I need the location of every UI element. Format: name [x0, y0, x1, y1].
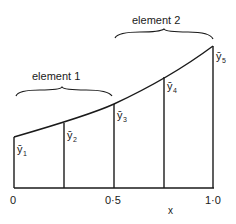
ordinate-label-1: ȳ 1: [17, 143, 27, 157]
ordinate-label-2: ȳ 2: [67, 129, 77, 143]
tick-0-5: 0·5: [105, 194, 121, 206]
tick-0: 0: [10, 194, 16, 206]
ordinate-label-4: ȳ 4: [167, 80, 177, 94]
brace-element-1: [16, 87, 112, 96]
element-1-label: element 1: [32, 70, 80, 82]
svg-text:4: 4: [173, 87, 177, 94]
svg-text:1: 1: [23, 150, 27, 157]
integration-diagram: element 1 element 2 ȳ 1 ȳ 2 ȳ 3 ȳ 4 ȳ 5 …: [0, 0, 236, 224]
ordinate-label-5: ȳ 5: [216, 50, 226, 64]
x-axis-label: x: [168, 205, 173, 216]
brace-element-2: [115, 29, 213, 39]
svg-text:5: 5: [222, 57, 226, 64]
tick-1-0: 1·0: [205, 194, 221, 206]
ordinate-label-3: ȳ 3: [117, 109, 127, 123]
svg-text:2: 2: [73, 136, 77, 143]
element-2-label: element 2: [132, 14, 180, 26]
svg-text:3: 3: [123, 116, 127, 123]
